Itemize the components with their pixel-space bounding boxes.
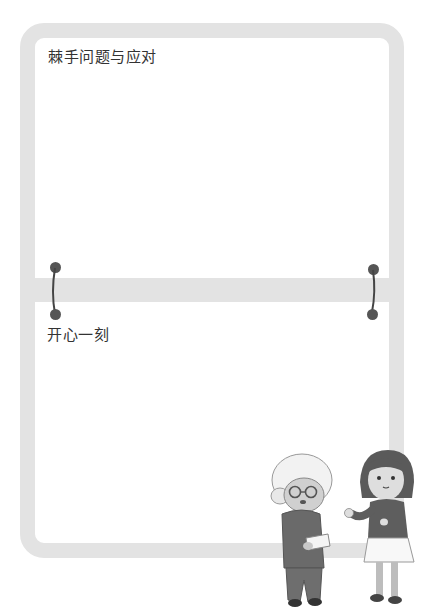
grandmother-and-girl-illustration bbox=[262, 440, 428, 614]
girl-figure bbox=[345, 450, 415, 604]
section-divider-band bbox=[20, 278, 404, 302]
section-title-happy-moment: 开心一刻 bbox=[47, 323, 109, 344]
grandmother-figure bbox=[271, 454, 332, 607]
section-title-tricky-problems: 棘手问题与应对 bbox=[48, 45, 157, 66]
